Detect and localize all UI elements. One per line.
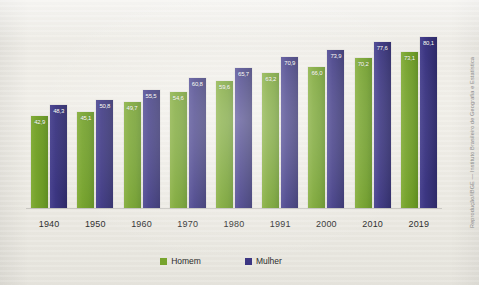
bar-mulher-2000: 73,9	[327, 50, 344, 208]
legend-swatch-mulher	[245, 258, 252, 265]
bar-value-label: 65,7	[235, 71, 252, 78]
bar-mulher-2010: 77,6	[374, 42, 391, 208]
bar-value-label: 49,7	[124, 105, 141, 112]
bar-value-label: 59,6	[216, 84, 233, 91]
bar-homem-1970: 54,6	[170, 92, 187, 208]
bar-homem-1960: 49,7	[124, 102, 141, 208]
x-tick-1991: 1991	[257, 214, 303, 234]
source-credit-text: Reprodução/IBGE — Instituto Brasileiro d…	[469, 57, 475, 228]
bar-group-1950: 45,150,8	[72, 16, 118, 208]
x-tick-2019: 2019	[396, 214, 442, 234]
bar-value-label: 50,8	[96, 103, 113, 110]
bar-groups: 42,948,345,150,849,755,554,660,859,665,7…	[26, 16, 442, 208]
bar-group-2019: 73,180,1	[396, 16, 442, 208]
bar-homem-1980: 59,6	[216, 81, 233, 208]
bar-value-label: 73,9	[327, 53, 344, 60]
bar-group-2010: 70,277,6	[350, 16, 396, 208]
x-tick-1950: 1950	[72, 214, 118, 234]
x-tick-2010: 2010	[350, 214, 396, 234]
bar-value-label: 45,1	[77, 115, 94, 122]
bar-value-label: 54,6	[170, 95, 187, 102]
bar-group-1960: 49,755,5	[118, 16, 164, 208]
bar-mulher-1940: 48,3	[50, 105, 67, 208]
bar-homem-1950: 45,1	[77, 112, 94, 208]
bar-value-label: 70,9	[281, 60, 298, 67]
chart-legend: Homem Mulher	[0, 256, 442, 266]
bar-value-label: 80,1	[420, 40, 437, 47]
legend-item-mulher: Mulher	[245, 256, 282, 266]
bar-mulher-1950: 50,8	[96, 100, 113, 208]
x-axis-labels: 194019501960197019801991200020102019	[26, 214, 442, 234]
bar-value-label: 48,3	[50, 108, 67, 115]
bar-group-2000: 66,073,9	[303, 16, 349, 208]
axis-baseline	[26, 208, 442, 209]
bar-mulher-1991: 70,9	[281, 57, 298, 208]
bar-value-label: 70,2	[355, 61, 372, 68]
bar-value-label: 55,5	[143, 93, 160, 100]
bar-value-label: 73,1	[401, 55, 418, 62]
x-tick-1980: 1980	[211, 214, 257, 234]
bar-mulher-1970: 60,8	[189, 78, 206, 208]
bar-homem-2010: 70,2	[355, 58, 372, 208]
bar-mulher-1960: 55,5	[143, 90, 160, 208]
bar-mulher-2019: 80,1	[420, 37, 437, 208]
legend-label-mulher: Mulher	[256, 256, 282, 266]
legend-label-homem: Homem	[171, 256, 201, 266]
plot-area: 42,948,345,150,849,755,554,660,859,665,7…	[26, 16, 442, 208]
bar-homem-2000: 66,0	[308, 67, 325, 208]
bar-group-1991: 63,270,9	[257, 16, 303, 208]
bar-value-label: 60,8	[189, 81, 206, 88]
bar-group-1940: 42,948,3	[26, 16, 72, 208]
bar-group-1980: 59,665,7	[211, 16, 257, 208]
x-tick-1940: 1940	[26, 214, 72, 234]
x-tick-1960: 1960	[118, 214, 164, 234]
bar-group-1970: 54,660,8	[165, 16, 211, 208]
legend-item-homem: Homem	[160, 256, 201, 266]
chart-page: 42,948,345,150,849,755,554,660,859,665,7…	[0, 0, 479, 285]
bar-homem-1991: 63,2	[262, 73, 279, 208]
bar-value-label: 42,9	[31, 119, 48, 126]
bar-homem-1940: 42,9	[31, 116, 48, 208]
bar-mulher-1980: 65,7	[235, 68, 252, 208]
legend-swatch-homem	[160, 258, 167, 265]
bar-value-label: 66,0	[308, 70, 325, 77]
bar-value-label: 63,2	[262, 76, 279, 83]
x-tick-2000: 2000	[303, 214, 349, 234]
bar-value-label: 77,6	[374, 45, 391, 52]
source-credit: Reprodução/IBGE — Instituto Brasileiro d…	[466, 0, 478, 285]
x-tick-1970: 1970	[165, 214, 211, 234]
bar-homem-2019: 73,1	[401, 52, 418, 208]
